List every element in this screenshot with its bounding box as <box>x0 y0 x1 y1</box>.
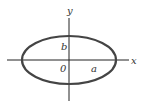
origin-label: 0 <box>60 63 67 74</box>
semi-minor-label: b <box>61 41 67 52</box>
ellipse-diagram: y x b 0 a <box>0 0 143 108</box>
diagram-canvas: y x b 0 a <box>0 0 143 108</box>
y-axis-label: y <box>66 5 73 16</box>
x-axis-label: x <box>131 55 137 66</box>
semi-major-label: a <box>91 63 97 74</box>
